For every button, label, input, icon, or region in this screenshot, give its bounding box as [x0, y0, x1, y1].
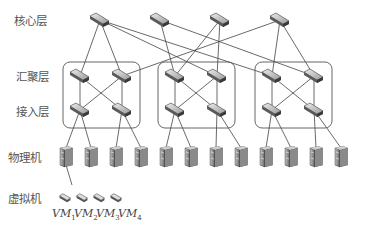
server-icon-1: [60, 146, 73, 167]
aggregation-switch-icon-2-1: [165, 69, 184, 83]
vm-icon-1: [60, 194, 71, 203]
vm-icon-2: [77, 194, 88, 203]
server-icon-12: [335, 146, 348, 167]
links: [66, 20, 341, 185]
vm-label-2: VM2: [74, 207, 98, 222]
aggregation-switch-icon-1-2: [112, 69, 131, 83]
vm-label-1: VM1: [52, 207, 76, 222]
server-icon-8: [235, 146, 248, 167]
server-icon-10: [285, 146, 298, 167]
core-switch-icon-1: [90, 13, 109, 27]
server-icon-7: [210, 146, 223, 167]
server-icon-2: [85, 146, 98, 167]
server-icon-5: [160, 146, 173, 167]
access-switch-icon-3-2: [304, 103, 323, 117]
core-switch-icon-2: [150, 13, 169, 27]
vm-label-4: VM4: [118, 207, 142, 222]
aggregation-switch-icon-3-1: [262, 69, 281, 83]
aggregation-switch-icon-1-1: [70, 69, 89, 83]
vm-icon-4: [111, 194, 122, 203]
devices: [60, 13, 348, 202]
server-icon-9: [260, 146, 273, 167]
network-topology-diagram: [0, 0, 368, 231]
server-icon-6: [185, 146, 198, 167]
server-icon-3: [110, 146, 123, 167]
aggregation-switch-icon-3-2: [304, 69, 323, 83]
vm-label-3: VM3: [96, 207, 120, 222]
aggregation-switch-icon-2-2: [207, 69, 226, 83]
vm-icon-3: [94, 194, 105, 203]
server-icon-11: [310, 146, 323, 167]
server-icon-4: [135, 146, 148, 167]
